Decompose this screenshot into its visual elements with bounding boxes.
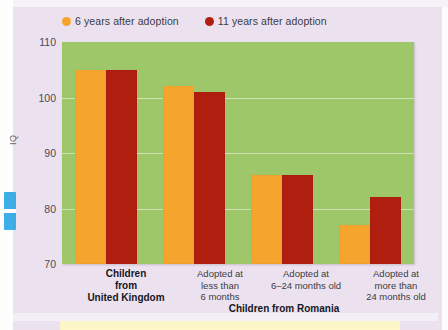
x-label-cat1-line1: Adopted at — [174, 268, 266, 280]
bar-group-3 — [238, 42, 326, 264]
page-bottom-cream-strip — [60, 321, 400, 330]
bar-group-2 — [150, 42, 238, 264]
y-tick-70: 70 — [22, 258, 56, 270]
bar-2-series-1[interactable] — [163, 86, 194, 264]
legend-label-6-years: 6 years after adoption — [75, 15, 179, 27]
bar-1-series-2[interactable] — [106, 70, 137, 264]
x-label-cat1-line2: less than — [174, 280, 266, 292]
y-tick-110: 110 — [22, 36, 56, 48]
x-label-cat2-line2: 6–24 months old — [254, 280, 358, 292]
plot-area — [62, 42, 414, 264]
x-label-cat3-line2: more than — [348, 280, 444, 292]
x-label-united-kingdom: Children from United Kingdom — [60, 268, 192, 304]
x-label-cat2-line1: Adopted at — [254, 268, 358, 280]
y-axis-ticks: 110 100 90 80 70 — [20, 42, 56, 264]
orange-circle-marker-icon — [62, 17, 71, 26]
x-label-uk-line3: United Kingdom — [60, 292, 192, 304]
chart-legend: 6 years after adoption 11 years after ad… — [62, 15, 327, 27]
y-tick-100: 100 — [22, 92, 56, 104]
x-label-cat3-line3: 24 months old — [348, 291, 444, 303]
x-axis-labels: Children from United Kingdom Adopted at … — [62, 268, 414, 312]
x-label-more-than-24-months: Adopted at more than 24 months old — [348, 268, 444, 303]
bar-1-series-1[interactable] — [75, 70, 106, 264]
bar-2-series-2[interactable] — [194, 92, 225, 264]
chart-page: 6 years after adoption 11 years after ad… — [0, 0, 448, 330]
bar-4-series-1[interactable] — [339, 225, 370, 264]
bar-4-series-2[interactable] — [370, 197, 401, 264]
bar-3-series-2[interactable] — [282, 175, 313, 264]
x-label-6-24-months: Adopted at 6–24 months old — [254, 268, 358, 291]
x-label-less-than-6-months: Adopted at less than 6 months — [174, 268, 266, 303]
page-top-edge — [13, 0, 448, 7]
legend-label-11-years: 11 years after adoption — [218, 15, 327, 27]
x-label-cat1-line3: 6 months — [174, 291, 266, 303]
legend-item-6-years: 6 years after adoption — [62, 15, 179, 27]
y-axis-title: IQ — [8, 134, 18, 145]
page-left-edge — [0, 0, 13, 330]
legend-item-11-years: 11 years after adoption — [205, 15, 327, 27]
x-label-cat3-line1: Adopted at — [348, 268, 444, 280]
page-bottom-band — [13, 313, 438, 321]
bar-3-series-1[interactable] — [251, 175, 282, 264]
y-tick-80: 80 — [22, 203, 56, 215]
x-label-uk-line1: Children — [60, 268, 192, 280]
dark-red-circle-marker-icon — [205, 17, 214, 26]
bar-group-1 — [62, 42, 150, 264]
blue-page-tab-icon — [4, 192, 16, 230]
bar-group-4 — [326, 42, 414, 264]
x-label-uk-line2: from — [60, 280, 192, 292]
bar-series-container — [62, 42, 414, 264]
y-tick-90: 90 — [22, 147, 56, 159]
